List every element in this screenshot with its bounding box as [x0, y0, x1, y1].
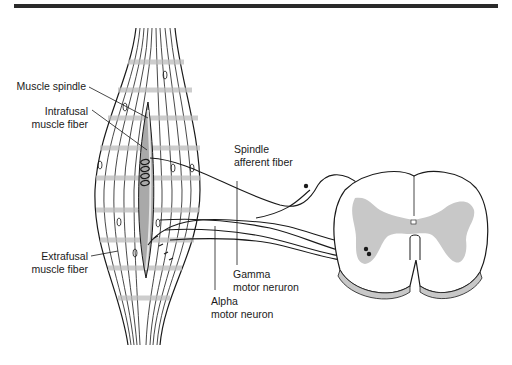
- label-muscle-spindle: Muscle spindle: [10, 80, 86, 92]
- label-extrafusal-2: muscle fiber: [10, 263, 88, 275]
- muscle-spindle: [139, 102, 154, 278]
- label-alpha-2: motor neuron: [211, 308, 273, 320]
- label-intrafusal-2: muscle fiber: [10, 118, 88, 130]
- label-alpha-1: Alpha: [211, 295, 238, 307]
- label-gamma-1: Gamma: [233, 268, 270, 280]
- label-spindle-afferent-2: afferent fiber: [234, 156, 293, 168]
- label-spindle-afferent-1: Spindle: [234, 143, 269, 155]
- label-intrafusal-1: Intrafusal: [10, 105, 88, 117]
- label-extrafusal-1: Extrafusal: [10, 250, 88, 262]
- label-gamma-2: motor neruron: [233, 281, 299, 293]
- spinal-cord: [334, 172, 488, 299]
- dorsal-root-ganglion-cell: [304, 184, 308, 188]
